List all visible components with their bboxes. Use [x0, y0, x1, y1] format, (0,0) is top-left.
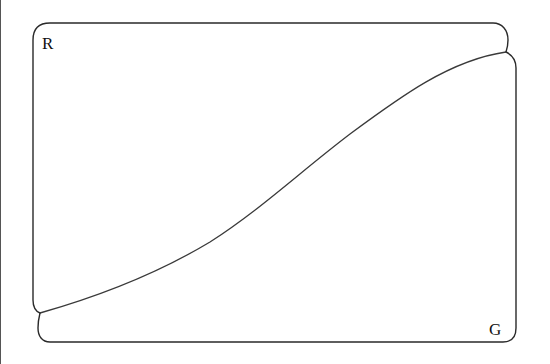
region-r-outline [33, 23, 508, 313]
region-label-g: G [489, 320, 501, 339]
region-g-outline [38, 52, 516, 342]
region-diagram: R G [0, 0, 550, 364]
region-label-r: R [42, 34, 54, 53]
boundary-curve [40, 52, 506, 313]
